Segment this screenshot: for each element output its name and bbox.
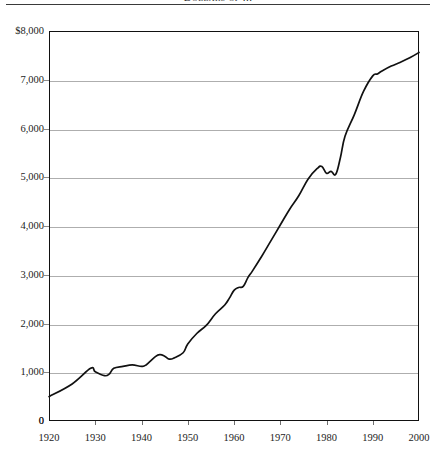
x-tick-label-1990: 1990 xyxy=(362,433,383,444)
y-tick-label-2000: 2,000 xyxy=(20,319,44,330)
chart-figure: Dollars of ... 01,0002,0003,0004,0005,00… xyxy=(0,0,436,458)
y-origin-label: 0 xyxy=(39,416,44,427)
y-tick-label-6000: 6,000 xyxy=(20,124,44,135)
gridline-4000 xyxy=(50,227,418,228)
gridline-1000 xyxy=(50,373,418,374)
x-tick-1990 xyxy=(373,421,374,425)
y-tick-5000 xyxy=(43,177,49,178)
y-tick-4000 xyxy=(43,226,49,227)
gridline-5000 xyxy=(50,178,418,179)
x-tick-label-1960: 1960 xyxy=(224,433,245,444)
x-tick-1930 xyxy=(95,421,96,425)
x-tick-label-2000: 2000 xyxy=(409,433,430,444)
y-tick-label-4000: 4,000 xyxy=(20,221,44,232)
y-tick-3000 xyxy=(43,275,49,276)
y-tick-1000 xyxy=(43,372,49,373)
x-tick-label-1940: 1940 xyxy=(131,433,152,444)
title-divider-rule xyxy=(6,4,430,5)
y-tick-label-3000: 3,000 xyxy=(20,270,44,281)
x-tick-label-1980: 1980 xyxy=(316,433,337,444)
gridline-2000 xyxy=(50,325,418,326)
x-tick-label-1920: 1920 xyxy=(39,433,60,444)
y-tick-label-8000: $8,000 xyxy=(15,26,44,37)
y-tick-7000 xyxy=(43,80,49,81)
chart-title: Dollars of ... xyxy=(0,0,436,3)
x-tick-1970 xyxy=(280,421,281,425)
x-tick-1960 xyxy=(234,421,235,425)
plot-area xyxy=(49,31,419,421)
x-tick-1950 xyxy=(188,421,189,425)
x-tick-1940 xyxy=(142,421,143,425)
y-tick-label-7000: 7,000 xyxy=(20,75,44,86)
x-tick-label-1930: 1930 xyxy=(85,433,106,444)
y-tick-label-1000: 1,000 xyxy=(20,367,44,378)
y-axis-labels: 01,0002,0003,0004,0005,0006,0007,000$8,0… xyxy=(0,0,44,458)
x-tick-label-1950: 1950 xyxy=(177,433,198,444)
x-tick-1980 xyxy=(327,421,328,425)
gridline-3000 xyxy=(50,276,418,277)
x-tick-label-1970: 1970 xyxy=(270,433,291,444)
y-tick-label-5000: 5,000 xyxy=(20,172,44,183)
gridline-6000 xyxy=(50,130,418,131)
y-tick-6000 xyxy=(43,129,49,130)
y-tick-2000 xyxy=(43,324,49,325)
gridline-7000 xyxy=(50,81,418,82)
